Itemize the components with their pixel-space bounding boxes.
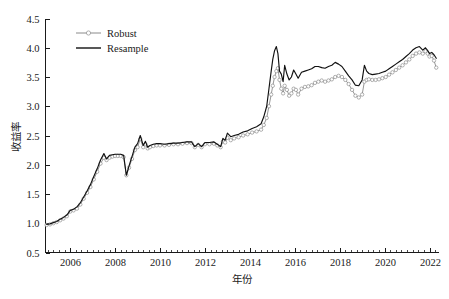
series-line-robust — [47, 51, 437, 225]
y-tick-label: 3.5 — [26, 72, 39, 83]
data-point-marker — [357, 96, 360, 99]
data-point-marker — [404, 61, 407, 64]
data-point-marker — [398, 66, 401, 69]
data-point-marker — [330, 78, 333, 81]
data-point-marker — [241, 134, 244, 137]
legend-marker-robust-icon — [86, 31, 90, 35]
data-point-marker — [347, 82, 350, 85]
y-tick-label: 3.0 — [26, 101, 39, 112]
data-point-marker — [246, 133, 249, 136]
data-point-marker — [229, 138, 232, 141]
chart-figure: 0.51.01.52.02.53.03.54.04.5 200620082010… — [0, 0, 449, 299]
data-point-marker — [374, 78, 377, 81]
data-point-marker — [223, 141, 226, 144]
chart-legend: Robust Resample — [76, 28, 149, 54]
data-point-marker — [285, 88, 288, 91]
data-point-marker — [323, 80, 326, 83]
y-tick-label: 0.5 — [26, 248, 39, 259]
data-point-marker — [273, 75, 276, 78]
data-point-marker — [414, 52, 417, 55]
data-point-marker — [294, 88, 297, 91]
x-axis-tick-labels: 200620082010201220142016201820202022 — [60, 257, 441, 268]
data-point-marker — [337, 74, 340, 77]
data-point-marker — [283, 84, 286, 87]
data-point-marker — [250, 131, 253, 134]
data-point-marker — [381, 76, 384, 79]
y-tick-label: 1.5 — [26, 189, 39, 200]
x-tick-label: 2014 — [240, 257, 262, 268]
data-point-marker — [377, 78, 380, 81]
data-point-marker — [300, 87, 303, 90]
data-point-marker — [435, 66, 438, 69]
data-point-marker — [265, 116, 268, 119]
series-group — [45, 47, 438, 227]
y-axis-tick-labels: 0.51.01.52.02.53.03.54.04.5 — [26, 14, 39, 259]
data-point-marker — [307, 85, 310, 88]
y-axis-ticks — [46, 20, 50, 254]
data-point-marker — [267, 105, 270, 108]
y-axis-title: 收益率 — [10, 122, 22, 152]
legend-label-resample: Resample — [107, 43, 149, 54]
x-tick-label: 2006 — [60, 257, 81, 268]
data-point-marker — [387, 73, 390, 76]
x-tick-label: 2020 — [375, 257, 396, 268]
data-point-marker — [394, 68, 397, 71]
data-point-marker — [367, 78, 370, 81]
data-point-marker — [237, 136, 240, 139]
x-axis-ticks — [71, 248, 431, 253]
data-point-marker — [354, 94, 357, 97]
data-point-marker — [262, 123, 265, 126]
x-tick-label: 2016 — [285, 257, 306, 268]
data-point-marker — [384, 75, 387, 78]
x-tick-label: 2010 — [150, 257, 171, 268]
data-point-marker — [360, 93, 363, 96]
data-point-marker — [278, 78, 281, 81]
data-point-marker — [430, 54, 433, 57]
data-point-marker — [401, 64, 404, 67]
data-point-marker — [281, 92, 284, 95]
legend-label-robust: Robust — [107, 28, 137, 39]
series-markers-robust — [45, 50, 438, 227]
data-point-marker — [320, 79, 323, 82]
x-tick-label: 2012 — [195, 257, 216, 268]
data-point-marker — [408, 58, 411, 61]
data-point-marker — [313, 81, 316, 84]
data-point-marker — [269, 93, 272, 96]
data-point-marker — [327, 79, 330, 82]
y-tick-label: 4.5 — [26, 14, 39, 25]
data-point-marker — [296, 93, 299, 96]
x-tick-label: 2022 — [420, 257, 441, 268]
data-point-marker — [418, 51, 421, 54]
data-point-marker — [310, 83, 313, 86]
data-point-marker — [411, 54, 414, 57]
data-point-marker — [271, 84, 274, 87]
data-point-marker — [432, 59, 435, 62]
data-point-marker — [280, 87, 283, 90]
data-point-marker — [334, 75, 337, 78]
x-tick-label: 2018 — [330, 257, 351, 268]
data-point-marker — [344, 78, 347, 81]
y-tick-label: 4.0 — [26, 43, 39, 54]
data-point-marker — [255, 130, 258, 133]
data-point-marker — [371, 78, 374, 81]
data-point-marker — [391, 71, 394, 74]
y-tick-label: 2.0 — [26, 160, 39, 171]
data-point-marker — [350, 88, 353, 91]
y-tick-label: 2.5 — [26, 131, 39, 142]
x-axis-title: 年份 — [232, 273, 253, 285]
data-point-marker — [290, 92, 293, 95]
y-tick-label: 1.0 — [26, 218, 39, 229]
data-point-marker — [340, 75, 343, 78]
data-point-marker — [232, 137, 235, 140]
data-point-marker — [317, 80, 320, 83]
data-point-marker — [303, 85, 306, 88]
x-tick-label: 2008 — [105, 257, 126, 268]
data-point-marker — [259, 128, 262, 131]
return-rate-line-chart: 0.51.01.52.02.53.03.54.04.5 200620082010… — [0, 0, 449, 299]
